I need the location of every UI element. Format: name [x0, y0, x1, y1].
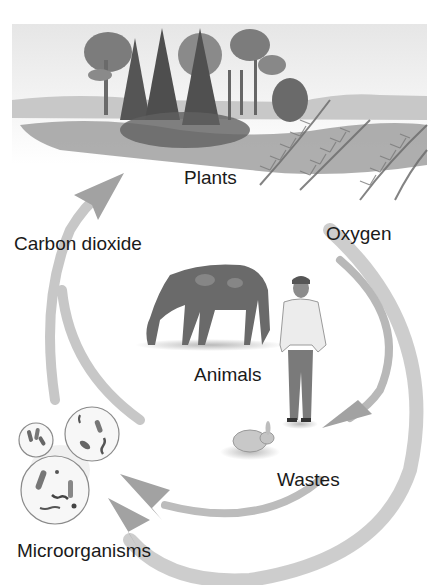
microorganisms-illustration — [19, 407, 119, 524]
person-illustration — [280, 276, 326, 429]
horse-illustration — [135, 264, 285, 351]
label-microorganisms: Microorganisms — [17, 541, 151, 560]
label-animals: Animals — [194, 365, 262, 384]
diagram-artwork — [0, 0, 437, 585]
carbon-oxygen-cycle-diagram: Plants Carbon dioxide Oxygen Animals Was… — [0, 0, 437, 585]
label-wastes: Wastes — [277, 470, 340, 489]
label-oxygen: Oxygen — [326, 224, 391, 243]
rabbit-illustration — [220, 421, 280, 460]
arrow-carbon-dioxide — [50, 195, 140, 420]
label-plants: Plants — [184, 168, 237, 187]
label-carbon-dioxide: Carbon dioxide — [14, 234, 142, 253]
